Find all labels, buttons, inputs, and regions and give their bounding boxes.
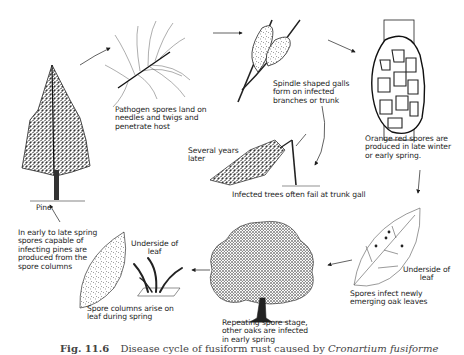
label-oak-leaf-infect: Spores infect newly emerging oak leaves <box>350 290 427 307</box>
trunk-gall-illustration <box>372 20 425 140</box>
figure-caption-scientific-name: Cronartium fusiforme <box>328 343 438 354</box>
label-spore-columns-underside: Underside of leaf <box>131 240 178 257</box>
arrow-galls-to-fallen-tree <box>315 106 325 165</box>
label-needles: Pathogen spores land on needles and twig… <box>115 106 206 131</box>
label-several-years: Several years later <box>188 147 239 164</box>
figure-caption: Fig. 11.6 Disease cycle of fusiform rust… <box>60 343 438 354</box>
pine-twig-illustration <box>105 21 190 107</box>
arrow-oak-leaf-to-oak <box>328 260 352 265</box>
label-pine-infecting-spores: In early to late spring spores capable o… <box>18 229 97 271</box>
label-oak-tree: Repeating spore stage, other oaks are in… <box>222 319 308 344</box>
label-fallen-tree: Infected trees often fail at trunk gall <box>232 191 366 199</box>
arrow-orange-spores-to-oak-leaf <box>418 170 420 193</box>
pine-tree-illustration <box>22 65 90 201</box>
arrow-pine-to-needles <box>80 48 110 65</box>
label-pine: Pine <box>36 204 52 212</box>
label-spore-columns: Spore columns arise on leaf during sprin… <box>87 305 174 322</box>
disease-cycle-diagram: Pine Pathogen spores land on needles and… <box>0 0 464 355</box>
label-galls: Spindle shaped galls form on infected br… <box>273 80 349 105</box>
spore-columns-illustration <box>134 258 182 296</box>
figure-caption-text: Disease cycle of fusiform rust caused by <box>120 343 324 354</box>
arrow-galls-to-trunk-gall <box>328 40 355 52</box>
label-oak-leaf-underside: Underside of leaf <box>403 266 450 283</box>
figure-number: Fig. 11.6 <box>60 343 109 354</box>
label-orange-spores: Orange red spores are produced in late w… <box>365 135 451 160</box>
oak-tree-illustration <box>210 221 313 322</box>
